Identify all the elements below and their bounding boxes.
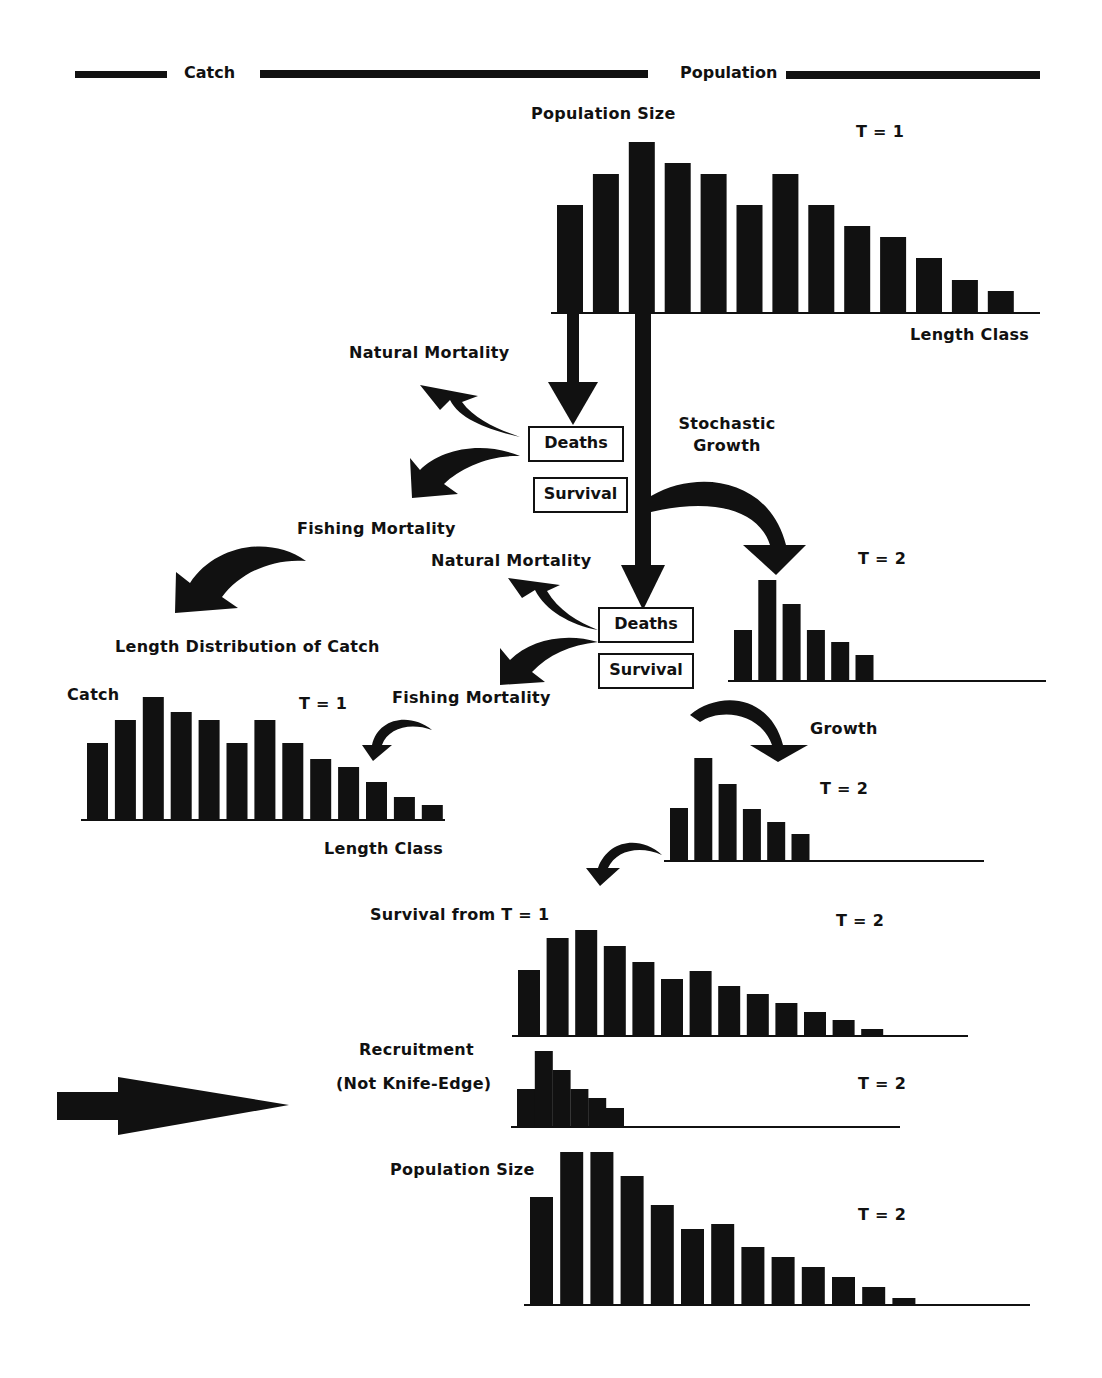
bar: [254, 720, 275, 819]
t2-label-d: T = 2: [858, 1074, 906, 1093]
bar: [747, 994, 769, 1035]
down-arrow-deaths-1: [548, 312, 598, 425]
bar: [604, 946, 626, 1035]
bar-charts: [81, 142, 1046, 1305]
bar: [719, 784, 737, 860]
down-arrow-long: [621, 312, 665, 610]
t2-label-b: T = 2: [820, 779, 868, 798]
deaths-box-2: Deaths: [598, 607, 694, 643]
length-class-top-label: Length Class: [910, 325, 1029, 344]
deaths-box-1: Deaths: [528, 426, 624, 462]
population-size-t1-label: Population Size: [531, 104, 676, 123]
stochastic-growth-label: Stochastic Growth: [672, 413, 782, 457]
bar: [743, 809, 761, 860]
bar: [553, 1070, 571, 1126]
bar: [227, 743, 248, 819]
natural-mortality-label-2: Natural Mortality: [431, 551, 591, 570]
bar: [892, 1298, 915, 1304]
natural-mortality-label-1: Natural Mortality: [349, 343, 509, 362]
bar: [629, 142, 655, 312]
bar: [557, 205, 583, 312]
bar-chart-3: [81, 697, 445, 820]
population-size-t2-label: Population Size: [390, 1160, 535, 1179]
header-population-label: Population: [676, 63, 781, 82]
survival-from-t1-label: Survival from T = 1: [370, 905, 549, 924]
bar: [862, 1287, 885, 1304]
bar: [588, 1098, 606, 1126]
bar-chart-4: [664, 758, 984, 861]
bar: [535, 1051, 553, 1126]
catch-y-label: Catch: [67, 685, 120, 704]
length-distribution-of-catch-label: Length Distribution of Catch: [115, 637, 380, 656]
t2-label-c: T = 2: [836, 911, 884, 930]
bar: [832, 1277, 855, 1304]
bar: [767, 822, 785, 860]
bar: [833, 1020, 855, 1035]
bar: [171, 712, 192, 819]
bar: [808, 205, 834, 312]
natural-mortality-arrow-icon-1: [420, 385, 520, 437]
bar-chart-2: [728, 580, 1046, 681]
t2-label-e: T = 2: [858, 1205, 906, 1224]
bar: [792, 834, 810, 860]
bar: [681, 1229, 704, 1304]
bar-chart-5: [512, 930, 968, 1036]
bar: [199, 720, 220, 819]
bar: [880, 237, 906, 312]
t1-catch-label: T = 1: [299, 694, 347, 713]
bar: [590, 1152, 613, 1304]
not-knife-edge-label: (Not Knife-Edge): [336, 1074, 491, 1093]
population-model-diagram: Catch Population Population Size T = 1 L…: [0, 0, 1102, 1378]
fishing-mortality-arrow-icon-2: [500, 638, 598, 685]
survival-box-1: Survival: [533, 477, 628, 513]
stochastic-growth-arrow-icon: [651, 482, 806, 575]
fishing-mortality-to-catch-arrow-icon: [175, 547, 306, 613]
recruitment-label: Recruitment: [359, 1040, 474, 1059]
catch-arrow-icon: [362, 720, 432, 761]
length-class-catch-label: Length Class: [324, 839, 443, 858]
diagram-graphics: [0, 0, 1102, 1378]
bar: [807, 630, 825, 680]
bar: [310, 759, 331, 819]
bar: [690, 971, 712, 1035]
fishing-mortality-label-1: Fishing Mortality: [297, 519, 456, 538]
growth-arrow-icon: [690, 700, 808, 762]
bar: [87, 743, 108, 819]
bar-chart-7: [524, 1152, 1030, 1305]
bar: [670, 808, 688, 860]
bar: [547, 938, 569, 1035]
bar: [661, 979, 683, 1035]
recruitment-arrow-icon: [57, 1077, 289, 1135]
bar: [115, 720, 136, 819]
natural-mortality-arrow-icon-2: [508, 578, 598, 630]
bar: [665, 163, 691, 312]
bar: [861, 1029, 883, 1035]
bar: [772, 1257, 795, 1304]
bar: [772, 174, 798, 312]
bar: [701, 174, 727, 312]
t1-top-label: T = 1: [856, 122, 904, 141]
survival-arrow-icon: [586, 843, 662, 886]
bar: [422, 805, 443, 819]
bar: [741, 1247, 764, 1304]
bar: [718, 986, 740, 1035]
bar: [338, 767, 359, 819]
bar: [916, 258, 942, 312]
bar: [856, 655, 874, 680]
bar: [632, 962, 654, 1035]
bar: [143, 697, 164, 819]
bar: [831, 642, 849, 680]
bar: [844, 226, 870, 312]
bar: [517, 1089, 535, 1126]
survival-box-2: Survival: [598, 653, 694, 689]
bar: [530, 1197, 553, 1304]
bar: [593, 174, 619, 312]
bar: [952, 280, 978, 312]
bar: [775, 1003, 797, 1035]
bar: [606, 1108, 624, 1126]
bar: [570, 1089, 588, 1126]
bar-chart-1: [551, 142, 1040, 313]
bar-chart-6: [511, 1051, 900, 1127]
bar: [651, 1205, 674, 1304]
bar: [802, 1267, 825, 1304]
